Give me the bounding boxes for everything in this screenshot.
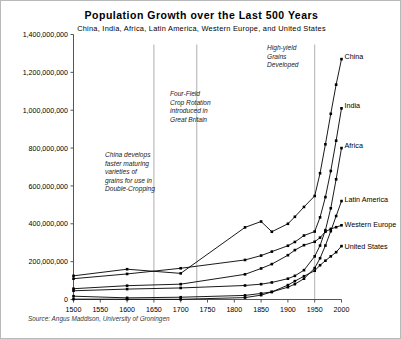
y-tick-label: 600,000,000 [29, 183, 69, 191]
chart-figure: Population Growth over the Last 500 Year… [0, 0, 401, 339]
data-point [335, 139, 338, 142]
data-point [271, 291, 274, 294]
data-point [313, 255, 316, 258]
data-point [126, 268, 129, 271]
x-tick-label: 2000 [334, 306, 350, 314]
data-point [72, 295, 75, 298]
data-point [72, 277, 75, 280]
data-point [313, 230, 316, 233]
data-point [260, 294, 263, 297]
data-point [340, 200, 343, 203]
data-point [271, 281, 274, 284]
series-line-latin-america [74, 201, 342, 298]
data-point [72, 287, 75, 290]
y-tick-label: 0 [64, 296, 68, 304]
data-point [294, 241, 297, 244]
series-label-united-states: United States [345, 242, 388, 251]
data-point [335, 178, 338, 181]
x-tick-label: 1950 [307, 306, 323, 314]
x-tick-label: 1900 [280, 306, 296, 314]
data-point [294, 275, 297, 278]
data-point [335, 215, 338, 218]
data-point [335, 226, 338, 229]
data-point [319, 172, 322, 175]
series-label-china: China [345, 52, 364, 61]
data-point [340, 58, 343, 61]
data-point [287, 222, 290, 225]
data-point [303, 234, 306, 237]
data-point [287, 284, 290, 287]
data-point [179, 272, 182, 275]
data-point [271, 250, 274, 253]
data-point [126, 288, 129, 291]
annotation-double-cropping: China develops faster maturing varieties… [105, 151, 155, 194]
data-point [303, 275, 306, 278]
series-label-africa: Africa [345, 141, 363, 150]
y-tick-label: 800,000,000 [29, 145, 69, 153]
data-point [287, 254, 290, 257]
x-tick-label: 1500 [66, 306, 82, 314]
series-label-india: India [345, 101, 361, 110]
data-point [244, 226, 247, 229]
data-point [319, 257, 322, 260]
series-label-western-europe: Western Europe [345, 220, 397, 229]
data-point [72, 298, 75, 301]
data-point [324, 259, 327, 262]
data-point [287, 277, 290, 280]
series-label-latin-america: Latin America [345, 195, 389, 204]
data-point [260, 220, 263, 223]
data-point [303, 269, 306, 272]
data-point [244, 296, 247, 299]
y-tick-label: 1,400,000,000 [23, 31, 68, 39]
y-tick-label: 200,000,000 [29, 258, 69, 266]
data-point [126, 273, 129, 276]
data-point [260, 283, 263, 286]
data-point [260, 254, 263, 257]
data-point [329, 255, 332, 258]
data-point [329, 207, 332, 210]
data-point [324, 143, 327, 146]
data-point [329, 170, 332, 173]
data-point [294, 280, 297, 283]
data-point [303, 206, 306, 209]
data-point [313, 240, 316, 243]
data-point [319, 216, 322, 219]
data-point [335, 251, 338, 254]
data-point [179, 267, 182, 270]
y-tick-label: 1,200,000,000 [23, 69, 68, 77]
data-point [335, 83, 338, 86]
data-point [329, 228, 332, 231]
source-note: Source: Angus Maddison, University of Gr… [28, 315, 170, 322]
y-tick-label: 1,000,000,000 [23, 107, 68, 115]
data-point [329, 113, 332, 116]
y-tick-label: 400,000,000 [29, 220, 69, 228]
annotation-high-yield-grains: High-yield Grains Developed [267, 44, 299, 70]
x-tick-label: 1850 [253, 306, 269, 314]
data-point [313, 267, 316, 270]
data-point [294, 249, 297, 252]
data-point [126, 284, 129, 287]
data-point [303, 277, 306, 280]
data-point [179, 287, 182, 290]
data-point [271, 263, 274, 266]
data-point [244, 259, 247, 262]
x-tick-label: 1600 [119, 306, 135, 314]
data-point [313, 269, 316, 272]
data-point [329, 230, 332, 233]
data-point [126, 298, 129, 301]
x-tick-label: 1550 [92, 306, 108, 314]
x-tick-label: 1700 [173, 306, 189, 314]
data-point [313, 195, 316, 198]
data-point [340, 224, 343, 227]
data-point [324, 196, 327, 199]
data-point [244, 284, 247, 287]
data-point [244, 273, 247, 276]
series-line-western-europe [74, 225, 342, 288]
x-tick-label: 1650 [146, 306, 162, 314]
data-point [294, 215, 297, 218]
data-point [303, 244, 306, 247]
x-tick-label: 1750 [200, 306, 216, 314]
data-point [179, 298, 182, 301]
data-point [324, 230, 327, 233]
data-point [340, 107, 343, 110]
